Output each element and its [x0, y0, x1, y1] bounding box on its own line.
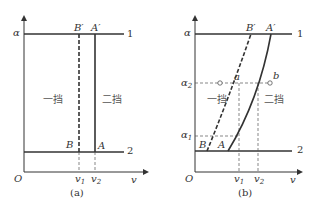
point-b-prime: B′	[73, 22, 84, 33]
y-axis-label: α	[13, 27, 20, 38]
tick-a2: α2	[181, 77, 193, 90]
point-b-prime: B′	[245, 22, 256, 33]
point-b-small: b	[273, 70, 279, 81]
caption-b: (b)	[238, 187, 252, 198]
x-axis-label: v	[290, 174, 296, 185]
y-axis-label: α	[184, 27, 191, 38]
point-a-small: a	[234, 71, 240, 82]
tick-v2: v2	[254, 173, 265, 186]
shift-curve-dashed	[207, 34, 251, 151]
point-a-prime: A′	[90, 22, 101, 33]
marker-right	[268, 81, 272, 85]
tick-v1: v1	[234, 173, 244, 186]
shift-curve-solid	[228, 34, 271, 151]
line-2-label: 2	[297, 144, 303, 155]
panel-b: α O v 1 2 B′ A′ B A a b α2 α1 v1 v2 一挡 二…	[181, 18, 303, 198]
diagram-canvas: α O v 1 2 B′ A′ B A v1 v2 一挡 二挡 (a) α O …	[0, 0, 313, 211]
caption-a: (a)	[70, 187, 84, 198]
region-first-gear: 一挡	[207, 93, 227, 105]
point-a: A	[217, 139, 225, 150]
region-first-gear: 一挡	[43, 93, 63, 105]
panel-a: α O v 1 2 B′ A′ B A v1 v2 一挡 二挡 (a)	[13, 18, 146, 198]
point-a-prime: A′	[265, 22, 276, 33]
point-b: B	[198, 139, 206, 150]
x-axis-label: v	[131, 174, 137, 185]
tick-v1: v1	[75, 173, 85, 186]
line-2-label: 2	[127, 145, 133, 156]
tick-a1: α1	[181, 129, 192, 142]
marker-left	[218, 81, 222, 85]
line-1-label: 1	[127, 28, 133, 39]
region-second-gear: 二挡	[102, 93, 122, 105]
point-a: A	[97, 140, 105, 151]
line-1-label: 1	[297, 28, 303, 39]
origin-label: O	[14, 173, 22, 184]
tick-v2: v2	[91, 173, 102, 186]
point-b: B	[65, 139, 73, 150]
region-second-gear: 二挡	[264, 93, 284, 105]
origin-label: O	[185, 173, 193, 184]
